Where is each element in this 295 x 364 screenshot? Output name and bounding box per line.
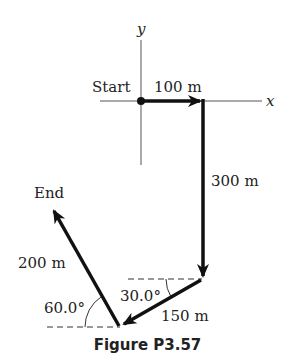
- figure: y x Start 100 m 300 m 30.0° 150 m 60.0° …: [0, 0, 295, 364]
- x-axis-label: x: [266, 92, 275, 110]
- y-axis-label: y: [136, 20, 146, 38]
- angle-arc-60: [85, 297, 101, 327]
- vector-300m-label: 300 m: [211, 172, 259, 190]
- vector-diagram: y x Start 100 m 300 m 30.0° 150 m 60.0° …: [0, 0, 295, 364]
- figure-caption: Figure P3.57: [0, 336, 295, 354]
- vector-150m-label: 150 m: [161, 307, 209, 325]
- angle-30-label: 30.0°: [120, 287, 161, 305]
- start-label: Start: [92, 78, 130, 96]
- angle-arc-30: [166, 279, 171, 297]
- end-label: End: [34, 184, 65, 202]
- vector-200m-label: 200 m: [18, 254, 66, 272]
- vector-100m-label: 100 m: [154, 78, 202, 96]
- angle-60-label: 60.0°: [44, 299, 85, 317]
